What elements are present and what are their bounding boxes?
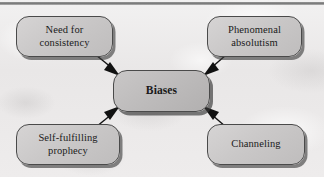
node-label: Channeling [231,138,280,150]
page-top-rule [0,2,324,5]
node-label: Self-fulfilling prophecy [38,132,97,157]
node-label: Need for consistency [39,24,89,49]
node-label: Biases [146,84,177,98]
node-biases[interactable]: Biases [113,70,210,112]
node-label: Phenomenal absolutism [228,24,281,49]
node-need-for-consistency[interactable]: Need for consistency [16,16,113,57]
arrow-phenomenal-absolutism-to-biases [203,55,226,76]
node-channeling[interactable]: Channeling [207,124,305,165]
biases-concept-map-figure: Need for consistency Phenomenal absoluti… [0,0,324,177]
node-phenomenal-absolutism[interactable]: Phenomenal absolutism [207,16,302,57]
node-self-fulfilling-prophecy[interactable]: Self-fulfilling prophecy [16,124,120,165]
